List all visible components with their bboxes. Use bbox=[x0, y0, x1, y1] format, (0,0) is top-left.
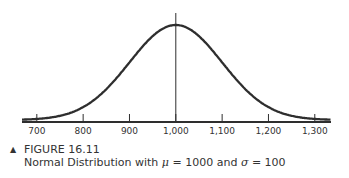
x-tick-label: 700 bbox=[28, 126, 45, 136]
figure-caption: ▲ FIGURE 16.11 Normal Distribution with … bbox=[24, 143, 286, 169]
x-tick-label: 900 bbox=[121, 126, 138, 136]
x-tick-label: 1,100 bbox=[209, 126, 235, 136]
figure-label: FIGURE 16.11 bbox=[24, 143, 100, 156]
normal-distribution-chart: 7008009001,0001,1001,2001,300 bbox=[0, 0, 349, 140]
x-tick-label: 1,000 bbox=[163, 126, 189, 136]
x-tick-label: 1,300 bbox=[302, 126, 328, 136]
x-tick-label: 1,200 bbox=[256, 126, 282, 136]
caption-text: Normal Distribution with μ = 1000 and σ … bbox=[24, 156, 286, 169]
x-tick-label: 800 bbox=[75, 126, 92, 136]
mu-symbol: μ bbox=[162, 156, 169, 169]
triangle-marker-icon: ▲ bbox=[10, 143, 24, 156]
